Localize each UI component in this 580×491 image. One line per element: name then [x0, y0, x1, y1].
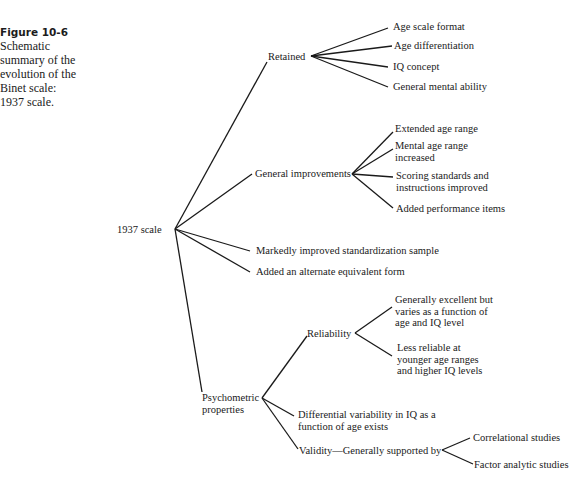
- node-reliability-child: Generally excellent but varies as a func…: [395, 294, 497, 329]
- node-alternate-form: Added an alternate equivalent form: [256, 266, 405, 278]
- node-reliability-child: Less reliable at younger age ranges and …: [397, 342, 492, 377]
- node-standardization: Markedly improved standardization sample: [256, 245, 439, 257]
- node-validity: Validity—Generally supported by: [299, 445, 441, 457]
- node-improvement-child: Added performance items: [396, 203, 505, 215]
- node-improvement-child: Scoring standards and instructions impro…: [396, 170, 496, 193]
- node-validity-child: Factor analytic studies: [474, 459, 568, 471]
- node-retained: Retained: [268, 51, 305, 63]
- node-psychometric: Psychometric properties: [202, 392, 264, 415]
- node-retained-child: General mental ability: [393, 81, 487, 93]
- node-retained-child: Age differentiation: [394, 40, 474, 52]
- node-reliability: Reliability: [307, 328, 351, 340]
- node-differential: Differential variability in IQ as a func…: [298, 409, 438, 432]
- node-root: 1937 scale: [117, 224, 162, 236]
- node-validity-child: Correlational studies: [473, 432, 560, 444]
- node-improvement-child: Extended age range: [395, 123, 478, 135]
- node-retained-child: Age scale format: [393, 21, 465, 33]
- node-general-improvements: General improvements: [255, 168, 351, 180]
- node-improvement-child: Mental age range increased: [395, 140, 495, 163]
- node-retained-child: IQ concept: [393, 61, 439, 73]
